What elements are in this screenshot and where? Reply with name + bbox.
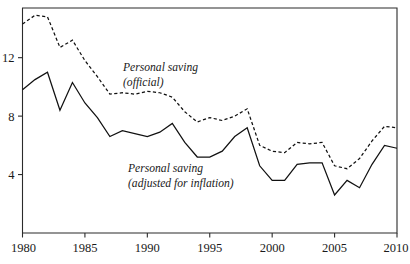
x-tick-label: 1980 — [11, 241, 36, 255]
y-tick-label: 12 — [2, 51, 15, 65]
annotation-official-line2: (official) — [123, 76, 164, 89]
annotation-official-line1: Personal saving — [122, 61, 198, 74]
x-tick-label: 2000 — [260, 241, 285, 255]
annotation-adjusted-line2: (adjusted for inflation) — [128, 177, 234, 190]
annotation-adjusted-line1: Personal saving — [127, 162, 203, 175]
chart-figure: 4812 1980198519901995200020052010 Person… — [0, 0, 410, 264]
x-tick-label: 2005 — [322, 241, 347, 255]
x-tick-label: 1985 — [72, 241, 97, 255]
y-tick-label: 4 — [8, 168, 15, 182]
x-tick-label: 1995 — [197, 241, 222, 255]
x-tick-label: 2010 — [384, 241, 409, 255]
y-tick-label: 8 — [8, 110, 14, 124]
x-tick-label: 1990 — [135, 241, 160, 255]
chart-background — [0, 0, 410, 264]
personal-saving-line-chart: 4812 1980198519901995200020052010 Person… — [0, 0, 410, 264]
